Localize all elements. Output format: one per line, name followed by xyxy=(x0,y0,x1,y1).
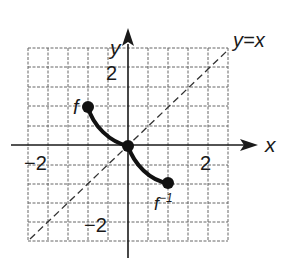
graph-canvas: y x y=x 2 −2 2 −2 f f−1 xyxy=(0,0,288,261)
tick-label-y-neg: −2 xyxy=(84,214,107,236)
tick-label-x-pos: 2 xyxy=(200,152,211,174)
point-origin xyxy=(122,140,134,152)
y-axis-label: y xyxy=(108,36,122,59)
curve-f-inverse-label: f−1 xyxy=(154,191,173,214)
reference-line-label: y=x xyxy=(231,29,266,51)
y-axis-arrow-icon xyxy=(122,28,134,46)
curve-f-label: f xyxy=(73,96,81,118)
tick-label-x-neg: −2 xyxy=(24,152,47,174)
curve-f-inverse-label-superscript: −1 xyxy=(159,191,173,205)
point-f-inverse-end xyxy=(162,177,174,189)
x-axis-label: x xyxy=(264,133,277,156)
point-f-start xyxy=(82,101,94,113)
tick-label-y-pos: 2 xyxy=(106,62,117,84)
